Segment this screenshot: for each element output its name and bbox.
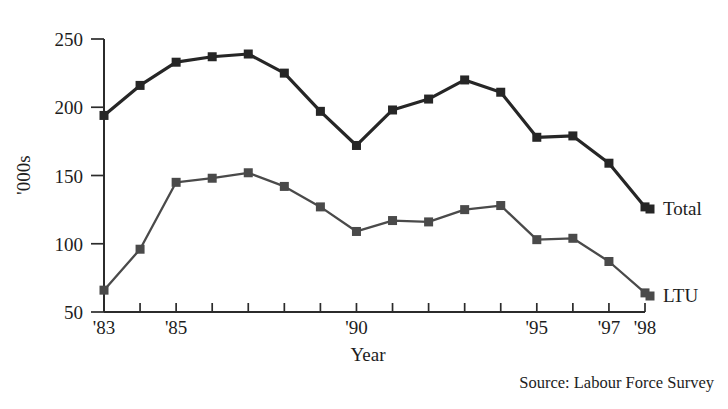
y-tick-label: 50 xyxy=(64,302,83,323)
data-point-marker xyxy=(244,168,253,177)
series-total xyxy=(100,50,650,212)
y-tick-label: 100 xyxy=(55,234,84,255)
data-point-marker xyxy=(388,105,397,114)
data-point-marker xyxy=(208,174,217,183)
data-point-marker xyxy=(460,75,469,84)
source-note: Source: Labour Force Survey xyxy=(519,373,714,393)
data-point-marker xyxy=(388,216,397,225)
data-point-marker xyxy=(496,88,505,97)
data-point-marker xyxy=(280,69,289,78)
data-point-marker xyxy=(136,245,145,254)
chart-canvas: 25020015010050 '83'85'90'95'97'98 '000s … xyxy=(0,0,728,409)
data-point-marker xyxy=(568,234,577,243)
x-axis-ticks xyxy=(104,299,645,312)
series-ltu xyxy=(100,168,650,297)
x-tick-label: '90 xyxy=(345,317,367,338)
data-point-marker xyxy=(316,202,325,211)
data-point-marker xyxy=(604,159,613,168)
data-point-marker xyxy=(532,235,541,244)
x-tick-label: '83 xyxy=(93,317,115,338)
series-label-total: Total xyxy=(663,198,702,219)
series-line xyxy=(104,173,645,293)
data-point-marker xyxy=(244,50,253,59)
data-point-marker xyxy=(352,141,361,150)
y-axis-ticks xyxy=(91,39,104,312)
x-axis-tick-labels: '83'85'90'95'97'98 xyxy=(93,317,656,338)
x-tick-label: '85 xyxy=(165,317,187,338)
data-point-marker xyxy=(424,95,433,104)
data-point-marker xyxy=(316,107,325,116)
x-tick-label: '97 xyxy=(598,317,620,338)
unemployment-line-chart: 25020015010050 '83'85'90'95'97'98 '000s … xyxy=(0,0,728,409)
y-axis-tick-labels: 25020015010050 xyxy=(55,29,84,323)
y-tick-label: 200 xyxy=(55,97,84,118)
data-point-marker xyxy=(280,182,289,191)
data-point-marker xyxy=(136,81,145,90)
data-point-marker xyxy=(352,227,361,236)
legend-marker xyxy=(646,205,655,214)
y-tick-label: 250 xyxy=(55,29,84,50)
data-point-marker xyxy=(100,286,109,295)
data-point-marker xyxy=(460,205,469,214)
data-point-marker xyxy=(604,257,613,266)
data-point-marker xyxy=(172,178,181,187)
data-point-marker xyxy=(496,201,505,210)
series-label-ltu: LTU xyxy=(663,285,698,306)
data-point-marker xyxy=(208,52,217,61)
y-axis-title: '000s xyxy=(13,155,34,194)
data-point-marker xyxy=(172,58,181,67)
data-point-marker xyxy=(424,217,433,226)
series-line xyxy=(104,54,645,207)
data-point-marker xyxy=(100,111,109,120)
x-tick-label: '95 xyxy=(526,317,548,338)
x-axis-title: Year xyxy=(350,344,386,365)
data-point-marker xyxy=(532,133,541,142)
data-point-marker xyxy=(568,131,577,140)
y-tick-label: 150 xyxy=(55,166,84,187)
x-tick-label: '98 xyxy=(634,317,656,338)
data-series-layer xyxy=(100,50,655,301)
legend-marker xyxy=(646,292,655,301)
